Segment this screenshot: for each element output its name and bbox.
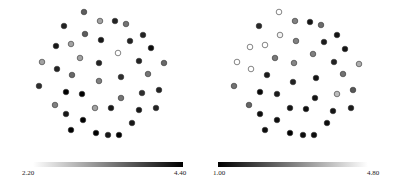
scatter-panel-right: 1.00 4.80 xyxy=(199,0,398,192)
data-point xyxy=(96,78,102,84)
data-point xyxy=(262,42,268,48)
scatter-panel-left: 2.20 4.40 xyxy=(0,0,199,192)
data-point xyxy=(300,132,306,138)
data-point xyxy=(356,61,362,67)
data-point xyxy=(340,71,346,77)
data-point xyxy=(118,95,124,101)
data-point xyxy=(342,46,348,52)
data-point xyxy=(61,23,67,29)
data-point xyxy=(79,91,85,97)
data-point xyxy=(63,111,69,117)
data-point xyxy=(96,60,102,66)
data-point xyxy=(246,102,252,108)
data-point xyxy=(115,50,121,56)
data-point xyxy=(287,130,293,136)
data-point xyxy=(54,66,60,72)
data-point xyxy=(312,95,318,101)
data-point xyxy=(127,38,133,44)
data-point xyxy=(264,72,270,78)
data-point xyxy=(311,132,317,138)
data-point xyxy=(248,66,254,72)
data-point xyxy=(257,89,263,95)
data-point xyxy=(262,127,268,133)
data-point xyxy=(93,130,99,136)
data-point xyxy=(350,87,356,93)
data-point xyxy=(77,55,83,61)
data-point xyxy=(81,9,87,15)
data-point xyxy=(97,18,103,24)
colorbar-left-min-label: 2.20 xyxy=(22,169,34,177)
data-point xyxy=(53,43,59,49)
data-point xyxy=(69,72,75,78)
data-point xyxy=(291,60,297,66)
data-point xyxy=(330,108,336,114)
data-point xyxy=(118,74,124,80)
data-point xyxy=(92,105,98,111)
data-point xyxy=(303,106,309,112)
colorbar-right-max-label: 4.80 xyxy=(367,169,379,177)
data-point xyxy=(274,117,280,123)
data-point xyxy=(290,79,296,85)
data-point xyxy=(136,107,142,113)
data-point xyxy=(68,127,74,133)
data-point xyxy=(277,32,283,38)
data-point xyxy=(145,71,151,77)
data-point xyxy=(313,75,319,81)
data-point xyxy=(63,89,69,95)
data-point xyxy=(116,132,122,138)
data-point xyxy=(105,132,111,138)
data-point xyxy=(256,23,262,29)
data-point xyxy=(324,120,330,126)
data-point xyxy=(98,37,104,43)
data-point xyxy=(139,90,145,96)
data-point xyxy=(321,39,327,45)
data-point xyxy=(140,32,146,38)
colorbar-left xyxy=(33,162,183,167)
data-point xyxy=(108,105,114,111)
data-point xyxy=(82,31,88,37)
data-point xyxy=(307,19,313,25)
data-point xyxy=(293,38,299,44)
data-point xyxy=(334,32,340,38)
data-point xyxy=(153,105,159,111)
data-point xyxy=(112,18,118,24)
data-point xyxy=(148,45,154,51)
data-point xyxy=(331,59,337,65)
data-point xyxy=(247,44,253,50)
colorbar-right-min-label: 1.00 xyxy=(213,169,225,177)
data-point xyxy=(80,117,86,123)
data-point xyxy=(334,91,340,97)
data-point xyxy=(287,105,293,111)
data-point xyxy=(348,105,354,111)
data-point xyxy=(161,60,167,66)
data-point xyxy=(276,9,282,15)
data-point xyxy=(272,55,278,61)
colorbar-left-max-label: 4.40 xyxy=(174,169,186,177)
data-point xyxy=(136,58,142,64)
data-point xyxy=(39,59,45,65)
data-point xyxy=(310,51,316,57)
data-point xyxy=(257,111,263,117)
data-point xyxy=(156,87,162,93)
data-point xyxy=(36,83,42,89)
data-point xyxy=(234,59,240,65)
data-point xyxy=(123,21,129,27)
colorbar-right xyxy=(218,162,368,167)
data-point xyxy=(129,120,135,126)
data-point xyxy=(52,102,58,108)
data-point xyxy=(231,83,237,89)
data-point xyxy=(318,22,324,28)
data-point xyxy=(292,18,298,24)
data-point xyxy=(68,41,74,47)
data-point xyxy=(274,91,280,97)
